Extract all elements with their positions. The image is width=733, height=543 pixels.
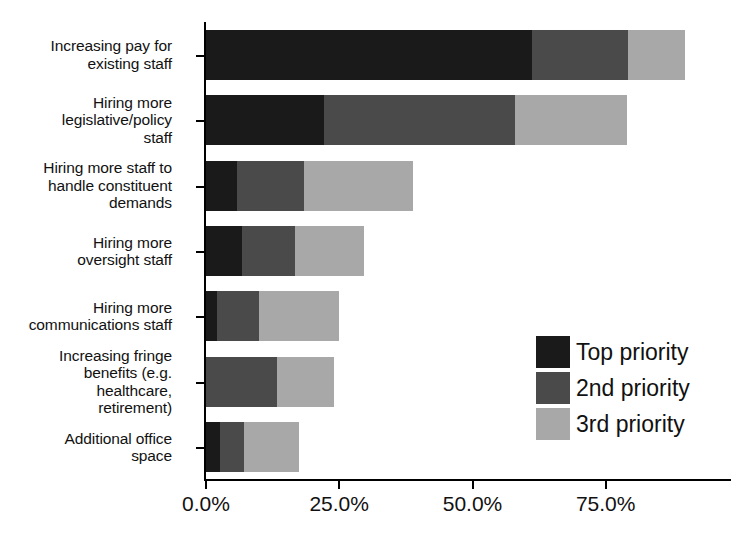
chart-legend: Top priority2nd priority3rd priority [536,335,726,443]
legend-item: 3rd priority [536,407,726,441]
y-axis-tick [196,120,204,122]
legend-swatch-icon [536,336,570,368]
bar-group [206,357,334,407]
legend-label: 3rd priority [576,411,685,437]
x-axis-tick-label: 0.0% [182,492,230,516]
bar-segment [206,30,532,80]
bar-segment [242,226,295,276]
y-axis-category-labels: Increasing pay for existing staffHiring … [0,0,182,543]
x-axis-tick [338,481,340,489]
bar-segment [628,30,685,80]
x-axis-tick-label: 25.0% [309,492,369,516]
x-axis-tick-label: 75.0% [576,492,636,516]
y-axis-tick [196,447,204,449]
bar-segment [304,161,413,211]
bar-segment [532,30,628,80]
legend-item: Top priority [536,335,726,369]
bar-segment [206,95,324,145]
bar-segment [237,161,304,211]
y-axis-tick [196,251,204,253]
bar-segment [206,291,217,341]
legend-label: 2nd priority [576,375,690,401]
bar-group [206,226,364,276]
y-axis-tick [196,316,204,318]
bar-group [206,422,299,472]
bar-segment [217,291,259,341]
y-axis-label: Hiring more oversight staff [77,234,172,269]
x-axis-tick [205,481,207,489]
y-axis-tick [196,382,204,384]
bar-group [206,291,339,341]
y-axis-label: Hiring more legislative/policy staff [62,94,172,147]
legend-item: 2nd priority [536,371,726,405]
bar-segment [206,226,242,276]
x-axis-tick-label: 50.0% [443,492,503,516]
bar-segment [295,226,364,276]
stacked-bar-chart: Increasing pay for existing staffHiring … [0,0,733,543]
y-axis-tick [196,55,204,57]
bar-segment [515,95,627,145]
x-axis-tick [605,481,607,489]
y-axis-label: Increasing pay for existing staff [51,37,172,72]
bar-group [206,161,413,211]
bar-segment [277,357,334,407]
legend-swatch-icon [536,372,570,404]
bar-segment [259,291,339,341]
bar-segment [206,422,220,472]
bar-segment [220,422,244,472]
legend-swatch-icon [536,408,570,440]
legend-label: Top priority [576,339,688,365]
bar-group [206,95,627,145]
y-axis-label: Hiring more staff to handle constituent … [43,159,172,212]
bar-segment [206,161,237,211]
y-axis-label: Increasing fringe benefits (e.g. healthc… [59,347,172,417]
y-axis-label: Additional office space [65,430,172,465]
bar-segment [244,422,299,472]
y-axis-tick [196,186,204,188]
x-axis-tick [472,481,474,489]
y-axis-label: Hiring more communications staff [29,299,172,334]
bar-segment [206,357,277,407]
bar-segment [324,95,515,145]
bar-group [206,30,685,80]
